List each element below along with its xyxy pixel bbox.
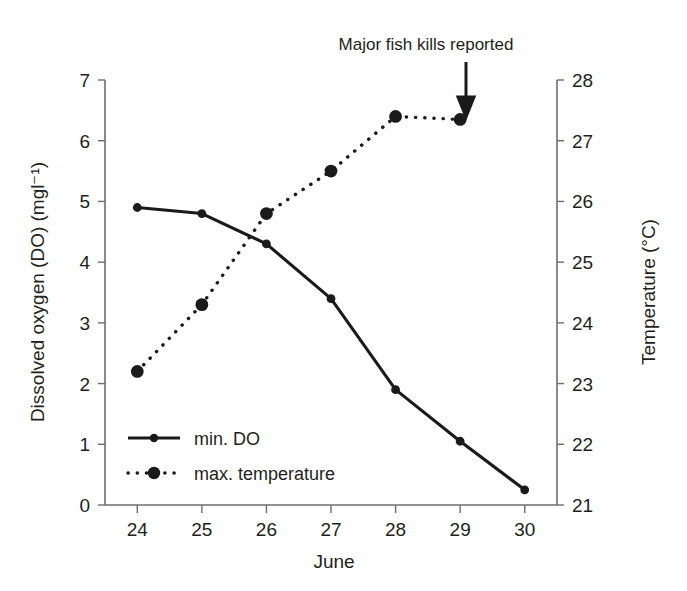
data-point <box>133 203 142 212</box>
legend-label-min-do: min. DO <box>194 429 260 449</box>
right-tick-label: 23 <box>572 374 593 395</box>
left-tick-label: 2 <box>79 374 90 395</box>
left-tick-label: 7 <box>79 70 90 91</box>
data-point <box>456 437 465 446</box>
data-point <box>195 298 208 311</box>
right-tick-label: 28 <box>572 70 593 91</box>
right-tick-label: 24 <box>572 313 594 334</box>
right-tick-label: 22 <box>572 434 593 455</box>
right-tick-label: 26 <box>572 191 593 212</box>
data-point <box>454 113 467 126</box>
right-tick-label: 21 <box>572 495 593 516</box>
x-tick-label: 24 <box>127 519 149 540</box>
data-point <box>197 209 206 218</box>
legend-marker-max-temperature <box>148 467 160 479</box>
legend-marker-min-do <box>150 434 158 442</box>
left-axis-title: Dissolved oxygen (DO) (mgl⁻¹) <box>27 162 48 422</box>
x-tick-label: 27 <box>320 519 341 540</box>
data-point <box>520 485 529 494</box>
left-tick-label: 0 <box>79 495 90 516</box>
x-tick-label: 26 <box>256 519 277 540</box>
data-point <box>391 385 400 394</box>
annotation-label: Major fish kills reported <box>339 35 514 54</box>
x-tick-label: 30 <box>514 519 535 540</box>
x-axis-title: June <box>313 551 354 572</box>
left-tick-label: 1 <box>79 434 90 455</box>
data-point <box>327 294 336 303</box>
data-point <box>325 165 338 178</box>
x-tick-label: 25 <box>191 519 212 540</box>
data-point <box>262 240 271 249</box>
left-tick-label: 4 <box>79 252 90 273</box>
left-tick-label: 6 <box>79 131 90 152</box>
data-point <box>389 110 402 123</box>
x-tick-label: 29 <box>450 519 471 540</box>
left-tick-label: 3 <box>79 313 90 334</box>
left-tick-label: 5 <box>79 191 90 212</box>
right-axis-title: Temperature (°C) <box>638 219 659 365</box>
chart-figure: Major fish kills reported 01234567 21222… <box>0 0 687 591</box>
data-point <box>131 365 144 378</box>
legend-label-max-temperature: max. temperature <box>194 464 335 484</box>
data-point <box>260 207 273 220</box>
right-tick-label: 27 <box>572 131 593 152</box>
x-tick-label: 28 <box>385 519 406 540</box>
dissolved-oxygen-temperature-chart: Major fish kills reported 01234567 21222… <box>0 0 687 591</box>
right-tick-label: 25 <box>572 252 593 273</box>
